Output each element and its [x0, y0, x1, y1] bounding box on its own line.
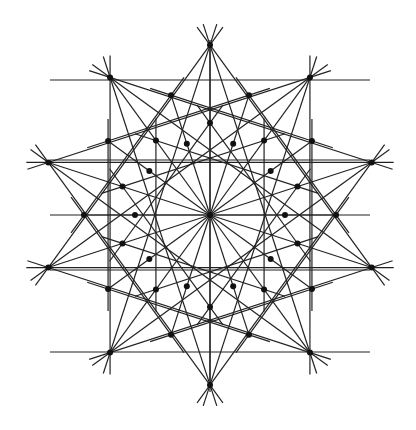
figure-line [210, 215, 312, 289]
figure-node [120, 184, 126, 190]
figure-node [153, 286, 159, 292]
figure-node [309, 286, 315, 292]
figure-node [282, 212, 288, 218]
figure-node [105, 138, 111, 144]
figure-node [207, 120, 213, 126]
center-node [207, 212, 213, 218]
figure-node [120, 240, 126, 246]
figure-node [168, 332, 174, 338]
figure-node [45, 265, 51, 271]
figure-node [184, 283, 190, 289]
figure-line [48, 162, 210, 215]
figure-node [246, 92, 252, 98]
figure-line [210, 215, 249, 335]
figure-node [132, 212, 138, 218]
figure-node [294, 184, 300, 190]
figure-node [146, 256, 152, 262]
figure-line [110, 215, 210, 353]
figure-node [294, 240, 300, 246]
figure-node [81, 212, 87, 218]
figure-node [45, 159, 51, 165]
figure-line [210, 77, 310, 215]
figure-node [153, 138, 159, 144]
figure-line [108, 215, 210, 289]
figure-node [307, 350, 313, 356]
figure-line [210, 95, 249, 215]
figure-node [107, 74, 113, 80]
figure-node [230, 283, 236, 289]
figure-line [171, 95, 210, 215]
figure-node [207, 304, 213, 310]
figure-node [107, 350, 113, 356]
decagonal-line-figure [0, 0, 416, 430]
figure-node [369, 265, 375, 271]
figure-node [146, 168, 152, 174]
figure-line [110, 77, 210, 215]
figure-node [261, 286, 267, 292]
figure-node [333, 212, 339, 218]
figure-line [210, 215, 372, 268]
figure-node [230, 141, 236, 147]
figure-node [207, 42, 213, 48]
figure-node [309, 138, 315, 144]
figure-node [184, 141, 190, 147]
figure-node [207, 382, 213, 388]
figure-line [171, 215, 210, 335]
figure-line [48, 215, 210, 268]
figure-node [369, 159, 375, 165]
figure-line [210, 162, 372, 215]
figure-node [168, 92, 174, 98]
figure-line [210, 215, 310, 353]
figure-node [246, 332, 252, 338]
figure-node [105, 286, 111, 292]
figure-line [210, 141, 312, 215]
figure-node [268, 168, 274, 174]
figure-node [268, 256, 274, 262]
figure-node [261, 138, 267, 144]
figure-node [307, 74, 313, 80]
figure-line [108, 141, 210, 215]
